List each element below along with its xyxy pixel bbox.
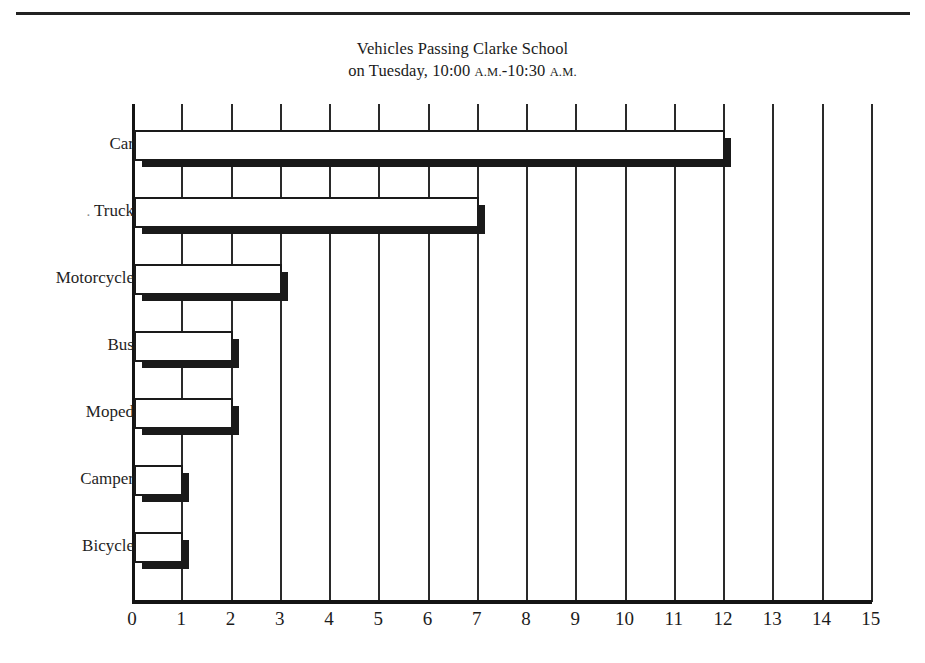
x-tick-label-15: 15 xyxy=(851,608,891,630)
x-tick-label-4: 4 xyxy=(309,608,349,630)
y-axis-label-bus: Bus xyxy=(0,335,134,355)
x-tick-label-9: 9 xyxy=(555,608,595,630)
x-tick-label-0: 0 xyxy=(112,608,152,630)
bar-truck xyxy=(134,197,479,228)
gridline-5 xyxy=(378,104,380,602)
x-tick-label-14: 14 xyxy=(802,608,842,630)
x-tick-label-3: 3 xyxy=(260,608,300,630)
gridline-6 xyxy=(428,104,430,602)
x-tick-label-5: 5 xyxy=(358,608,398,630)
x-tick-label-10: 10 xyxy=(605,608,645,630)
x-tick-label-12: 12 xyxy=(703,608,743,630)
x-tick-label-11: 11 xyxy=(654,608,694,630)
bar-bus xyxy=(134,331,233,362)
gridline-3 xyxy=(280,104,282,602)
gridline-4 xyxy=(329,104,331,602)
bar-camper xyxy=(134,465,183,496)
y-axis-label-camper: Camper xyxy=(0,469,134,489)
x-tick-label-1: 1 xyxy=(161,608,201,630)
bar-motorcycle xyxy=(134,264,282,295)
gridline-11 xyxy=(674,104,676,602)
bar-bicycle xyxy=(134,532,183,563)
x-tick-label-7: 7 xyxy=(457,608,497,630)
gridline-7 xyxy=(477,104,479,602)
x-tick-label-13: 13 xyxy=(752,608,792,630)
bar-moped xyxy=(134,398,233,429)
bar-car xyxy=(134,130,725,161)
gridline-9 xyxy=(575,104,577,602)
x-tick-label-2: 2 xyxy=(211,608,251,630)
gridline-15 xyxy=(871,104,873,602)
y-axis-label-moped: Moped xyxy=(0,402,134,422)
y-label-text: Truck xyxy=(94,201,134,220)
y-axis-label-truck: . Truck xyxy=(0,201,134,221)
gridline-8 xyxy=(526,104,528,602)
x-tick-label-8: 8 xyxy=(506,608,546,630)
y-axis-label-car: Car xyxy=(0,134,134,154)
gridline-10 xyxy=(625,104,627,602)
x-tick-label-6: 6 xyxy=(408,608,448,630)
gridline-13 xyxy=(772,104,774,602)
gridline-14 xyxy=(822,104,824,602)
y-axis-label-bicycle: Bicycle xyxy=(0,536,134,556)
label-scan-artifact: . xyxy=(87,203,95,219)
y-axis-label-motorcycle: Motorcycle xyxy=(0,268,134,288)
x-axis-line xyxy=(132,600,872,604)
gridline-12 xyxy=(723,104,725,602)
bar-chart: 0123456789101112131415 Car. TruckMotorcy… xyxy=(0,0,925,663)
